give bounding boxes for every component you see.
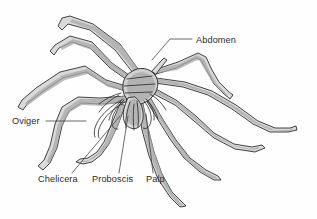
leg-group-lower-left [76, 104, 125, 164]
label-oviger: Oviger [12, 116, 40, 126]
label-proboscis: Proboscis [92, 174, 134, 184]
label-abdomen: Abdomen [196, 35, 236, 45]
sea-spider-diagram: Abdomen Oviger Chelicera Proboscis Palp [0, 0, 317, 219]
leg-shade [153, 88, 259, 150]
leader-abdomen [152, 39, 192, 60]
leg-group-upper-left [18, 16, 141, 170]
label-chelicera: Chelicera [38, 174, 78, 184]
leader-proboscis [119, 116, 128, 173]
figure-canvas: Abdomen Oviger Chelicera Proboscis Palp [0, 0, 317, 219]
leg-segment [58, 16, 141, 78]
label-palp: Palp [146, 174, 165, 184]
